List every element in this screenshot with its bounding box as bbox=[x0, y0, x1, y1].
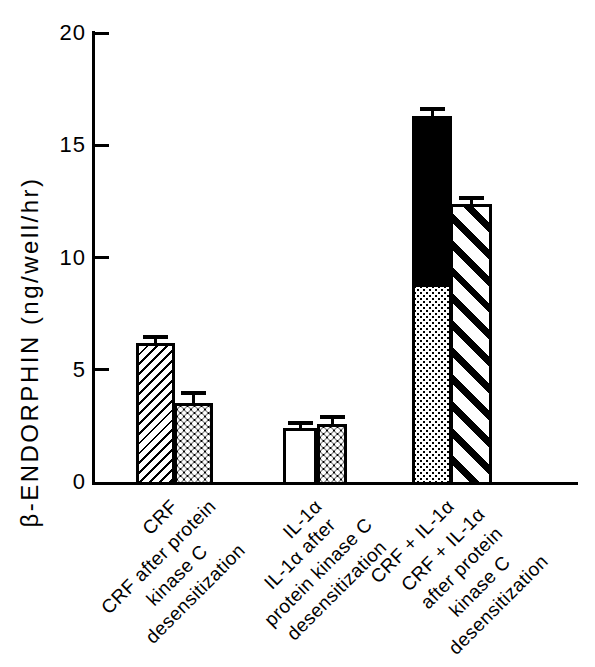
error-bar-cap bbox=[420, 107, 445, 111]
x-tick-label: CRF + IL-1α after protein kinase C desen… bbox=[388, 494, 555, 661]
error-bar-cap bbox=[320, 415, 345, 419]
error-bar-cap bbox=[288, 421, 313, 425]
y-tick-label: 10 bbox=[60, 244, 86, 272]
y-tick bbox=[95, 368, 109, 371]
bar-5 bbox=[412, 116, 452, 485]
y-tick bbox=[95, 32, 109, 35]
y-tick-label: 15 bbox=[60, 131, 86, 159]
bar-4 bbox=[317, 424, 347, 485]
y-axis-title: β-ENDORPHIN (ng/well/hr) bbox=[16, 176, 44, 527]
bar-3 bbox=[283, 428, 317, 485]
error-bar-cap bbox=[459, 196, 484, 200]
y-tick-label: 20 bbox=[60, 19, 86, 47]
x-tick-label: CRF after protein kinase C desensitizati… bbox=[96, 494, 259, 657]
bar-6 bbox=[450, 204, 492, 485]
y-tick-label: 0 bbox=[73, 468, 86, 496]
y-tick bbox=[95, 256, 109, 259]
error-bar-cap bbox=[181, 391, 206, 395]
error-bar-cap bbox=[143, 335, 168, 339]
bar-1 bbox=[136, 343, 175, 485]
figure-root: β-ENDORPHIN (ng/well/hr) 05101520CRFCRF … bbox=[0, 0, 595, 667]
y-tick-label: 5 bbox=[73, 356, 86, 384]
bar-5-segment-2 bbox=[415, 287, 449, 482]
bar-5-segment-1 bbox=[415, 119, 449, 287]
y-tick bbox=[95, 144, 109, 147]
bar-2 bbox=[174, 403, 213, 485]
